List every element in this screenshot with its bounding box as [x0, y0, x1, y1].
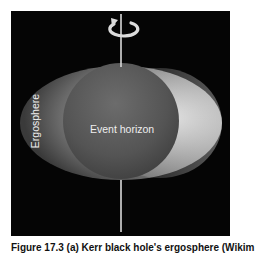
- rotation-arrow-icon: [110, 18, 138, 36]
- figure-caption: Figure 17.3 (a) Kerr black hole's ergosp…: [11, 242, 251, 254]
- event-horizon-sphere: [63, 63, 179, 179]
- event-horizon-label: Event horizon: [90, 123, 190, 135]
- kerr-black-hole-diagram: Event horizon Ergosphere: [11, 11, 230, 236]
- ergosphere-label: Ergosphere: [29, 91, 41, 151]
